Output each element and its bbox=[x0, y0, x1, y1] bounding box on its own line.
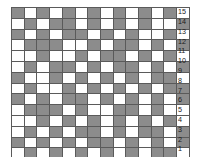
row-label: 6 bbox=[178, 95, 198, 105]
grid-cell bbox=[62, 126, 75, 137]
grid-cell bbox=[100, 105, 113, 116]
grid-cell bbox=[88, 29, 101, 40]
grid-cell bbox=[100, 94, 113, 105]
grid-cell bbox=[113, 137, 126, 148]
grid-cell bbox=[75, 148, 88, 157]
grid-cell bbox=[100, 29, 113, 40]
grid-cell bbox=[62, 51, 75, 62]
grid-cell bbox=[24, 115, 37, 126]
grid-cell bbox=[164, 94, 177, 105]
grid-cell bbox=[113, 83, 126, 94]
grid-cell bbox=[88, 115, 101, 126]
grid-cell bbox=[12, 18, 25, 29]
grid-cell bbox=[75, 83, 88, 94]
row-label: 11 bbox=[178, 46, 198, 56]
row-label: 3 bbox=[178, 125, 198, 135]
grid-cell bbox=[24, 126, 37, 137]
grid-cell bbox=[164, 8, 177, 19]
grid-cell bbox=[151, 18, 164, 29]
grid-cell bbox=[12, 29, 25, 40]
grid-cell bbox=[139, 105, 152, 116]
grid-cell bbox=[139, 137, 152, 148]
grid-row bbox=[12, 83, 190, 94]
grid-cell bbox=[62, 61, 75, 72]
grid-cell bbox=[37, 105, 50, 116]
grid-cell bbox=[88, 61, 101, 72]
grid-cell bbox=[151, 61, 164, 72]
row-label: 2 bbox=[178, 134, 198, 144]
grid-cell bbox=[12, 94, 25, 105]
grid-cell bbox=[88, 40, 101, 51]
grid-cell bbox=[24, 18, 37, 29]
grid-cell bbox=[75, 40, 88, 51]
grid-cell bbox=[164, 72, 177, 83]
grid-cell bbox=[113, 105, 126, 116]
grid-cell bbox=[62, 40, 75, 51]
grid-cell bbox=[164, 105, 177, 116]
grid-cell bbox=[37, 72, 50, 83]
grid-cell bbox=[50, 29, 63, 40]
grid-cell bbox=[100, 137, 113, 148]
row-label: 10 bbox=[178, 56, 198, 66]
grid-cell bbox=[113, 72, 126, 83]
grid-cell bbox=[100, 61, 113, 72]
grid-cell bbox=[50, 18, 63, 29]
grid-cell bbox=[126, 137, 139, 148]
grid-cell bbox=[24, 94, 37, 105]
grid-cell bbox=[24, 83, 37, 94]
grid-cell bbox=[12, 115, 25, 126]
grid-cell bbox=[126, 40, 139, 51]
grid-cell bbox=[139, 115, 152, 126]
grid-cell bbox=[139, 8, 152, 19]
figure-container: 151413121110987654321 bbox=[0, 0, 204, 157]
grid-cell bbox=[164, 115, 177, 126]
grid-cell bbox=[151, 105, 164, 116]
grid-row bbox=[12, 72, 190, 83]
grid-cell bbox=[37, 40, 50, 51]
grid-cell bbox=[88, 18, 101, 29]
grid-cell bbox=[50, 83, 63, 94]
grid-cell bbox=[113, 148, 126, 157]
grid-cell bbox=[151, 51, 164, 62]
grid-cell bbox=[113, 18, 126, 29]
grid-cell bbox=[100, 72, 113, 83]
grid-cell bbox=[24, 137, 37, 148]
grid-cell bbox=[113, 51, 126, 62]
grid-cell bbox=[164, 83, 177, 94]
grid-cell bbox=[151, 115, 164, 126]
grid-row bbox=[12, 51, 190, 62]
grid-cell bbox=[62, 137, 75, 148]
grid-cell bbox=[100, 126, 113, 137]
row-label: 9 bbox=[178, 66, 198, 76]
grid-cell bbox=[75, 94, 88, 105]
grid-cell bbox=[75, 126, 88, 137]
grid-cell bbox=[75, 18, 88, 29]
row-label: 1 bbox=[178, 144, 198, 154]
row-label: 15 bbox=[178, 7, 198, 17]
grid-cell bbox=[126, 18, 139, 29]
grid-cell bbox=[139, 94, 152, 105]
grid-row bbox=[12, 126, 190, 137]
grid-row bbox=[12, 94, 190, 105]
grid-cell bbox=[139, 61, 152, 72]
grid-cell bbox=[37, 137, 50, 148]
grid-cell bbox=[113, 8, 126, 19]
grid-cell bbox=[62, 83, 75, 94]
grid-cell bbox=[88, 148, 101, 157]
grid-cell bbox=[12, 51, 25, 62]
grid-cell bbox=[37, 61, 50, 72]
grid-cell bbox=[62, 18, 75, 29]
grid-cell bbox=[88, 72, 101, 83]
grid-cell bbox=[126, 105, 139, 116]
grid-cell bbox=[37, 18, 50, 29]
grid-cell bbox=[62, 8, 75, 19]
grid-body bbox=[12, 8, 190, 158]
grid-cell bbox=[62, 115, 75, 126]
grid-cell bbox=[100, 115, 113, 126]
grid-cell bbox=[126, 51, 139, 62]
grid-cell bbox=[151, 72, 164, 83]
grid-cell bbox=[151, 126, 164, 137]
grid-cell bbox=[126, 29, 139, 40]
grid-cell bbox=[139, 83, 152, 94]
grid-cell bbox=[139, 18, 152, 29]
